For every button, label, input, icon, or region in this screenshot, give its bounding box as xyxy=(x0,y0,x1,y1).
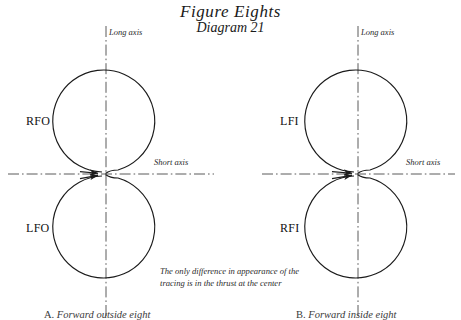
center-note-line-2: tracing is in the thrust at the center xyxy=(160,278,299,290)
left-caption-letter: A. xyxy=(44,309,54,320)
right-top-lobe-label: LFI xyxy=(280,115,299,128)
right-short-axis-label: Short axis xyxy=(406,158,440,167)
right-caption-letter: B. xyxy=(296,309,306,320)
right-figure-caption: B. Forward inside eight xyxy=(296,309,397,320)
left-top-lobe-label: RFO xyxy=(26,115,50,128)
figure-page: Figure Eights Diagram 21 xyxy=(0,0,461,320)
right-long-axis-label: Long axis xyxy=(361,28,394,37)
left-long-axis-label: Long axis xyxy=(109,28,142,37)
right-top-lobe xyxy=(305,70,407,173)
left-bottom-lobe-label: LFO xyxy=(26,222,50,235)
left-caption-text: Forward outside eight xyxy=(57,309,151,320)
right-caption-text: Forward inside eight xyxy=(308,309,396,320)
right-bottom-lobe-label: RFI xyxy=(280,222,300,235)
left-short-axis-label: Short axis xyxy=(154,158,188,167)
center-note: The only difference in appearance of the… xyxy=(160,266,299,289)
right-bottom-lobe xyxy=(305,175,407,278)
left-bottom-lobe xyxy=(53,175,155,278)
left-top-lobe xyxy=(53,70,155,173)
center-note-line-1: The only difference in appearance of the xyxy=(160,266,299,278)
left-figure-caption: A. Forward outside eight xyxy=(44,309,150,320)
